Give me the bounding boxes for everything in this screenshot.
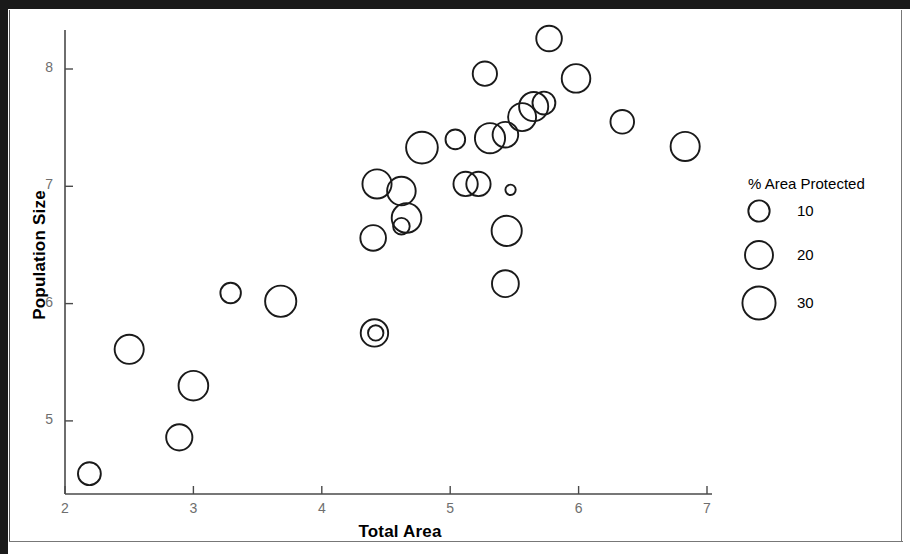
x-tick-label: 4 <box>297 500 347 516</box>
y-tick-label: 5 <box>3 411 53 427</box>
legend-bubble-30 <box>742 286 775 319</box>
data-point-bubble <box>360 225 386 251</box>
data-point-bubble <box>492 216 522 246</box>
data-point-bubble <box>610 110 634 134</box>
x-tick-label: 7 <box>682 500 732 516</box>
legend-title: % Area Protected <box>748 175 865 192</box>
x-axis-title: Total Area <box>300 522 500 542</box>
legend-label-10: 10 <box>797 202 814 219</box>
x-tick-label: 2 <box>40 500 90 516</box>
data-point-bubble <box>220 283 241 304</box>
y-tick-label: 6 <box>3 294 53 310</box>
legend-label-30: 30 <box>797 294 814 311</box>
data-point-bubble <box>536 26 562 52</box>
x-tick-label: 6 <box>554 500 604 516</box>
data-point-bubble <box>265 286 296 317</box>
data-point-bubble <box>78 462 101 485</box>
data-point-bubble <box>166 424 192 450</box>
plot-area <box>0 0 910 554</box>
data-point-bubble <box>475 123 505 153</box>
data-point-bubble <box>473 62 497 86</box>
data-point-group <box>78 26 700 485</box>
x-tick-label: 3 <box>168 500 218 516</box>
data-point-bubble <box>406 132 438 164</box>
axis-lines <box>65 30 712 494</box>
y-tick-label: 8 <box>3 59 53 75</box>
x-axis-ticks <box>65 486 707 494</box>
data-point-bubble <box>562 64 591 93</box>
chart-figure: Total Area Population Size 2345675678 % … <box>0 0 910 554</box>
data-point-bubble <box>368 325 383 340</box>
legend-bubble-10 <box>748 200 769 221</box>
data-point-bubble <box>115 335 144 364</box>
data-point-bubble <box>446 130 466 150</box>
data-point-bubble <box>392 203 422 233</box>
legend-marker-group <box>742 200 775 319</box>
legend-label-20: 20 <box>797 246 814 263</box>
y-tick-label: 7 <box>3 176 53 192</box>
data-point-bubble <box>492 270 519 297</box>
legend-bubble-20 <box>745 241 773 269</box>
data-point-bubble <box>508 103 536 131</box>
data-point-bubble <box>179 371 209 401</box>
data-point-bubble <box>505 185 515 195</box>
data-point-bubble <box>671 132 700 161</box>
y-axis-ticks <box>65 69 73 421</box>
x-tick-label: 5 <box>425 500 475 516</box>
data-point-bubble <box>387 177 416 206</box>
